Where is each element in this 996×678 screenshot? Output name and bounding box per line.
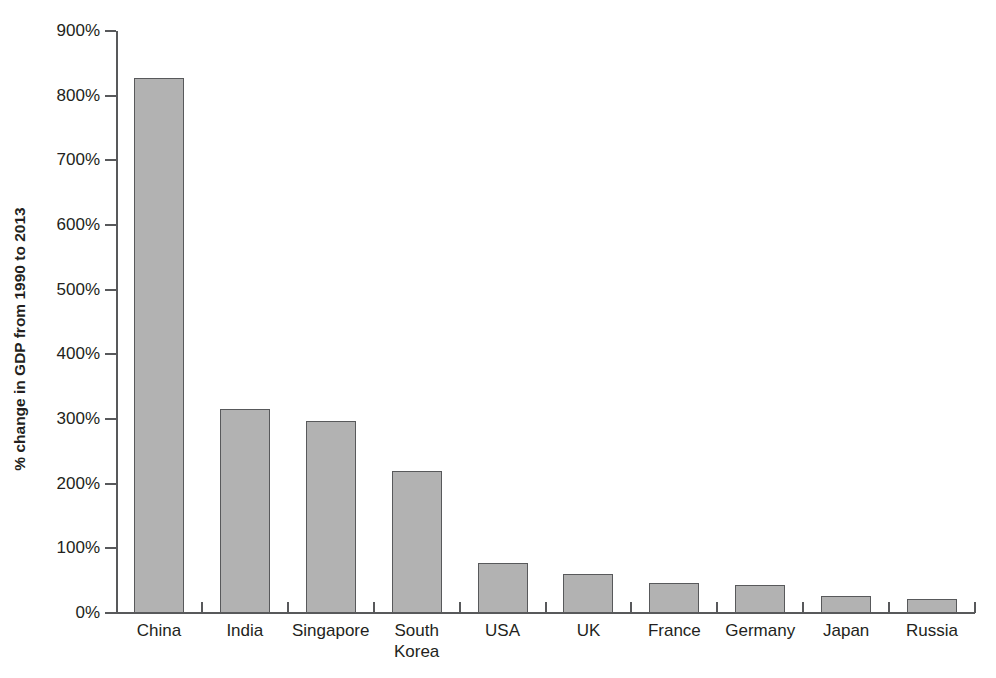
bar xyxy=(563,574,613,613)
y-tick-label: 400% xyxy=(0,344,100,364)
x-axis-category-label: Germany xyxy=(717,620,803,641)
x-tick-mark xyxy=(974,602,976,613)
x-axis-category-label: South Korea xyxy=(374,620,460,662)
y-tick-label: 200% xyxy=(0,474,100,494)
x-axis-category-label: Russia xyxy=(889,620,975,641)
y-tick-mark xyxy=(105,289,116,291)
x-tick-mark xyxy=(888,602,890,613)
bar xyxy=(735,585,785,613)
x-axis-category-label: India xyxy=(202,620,288,641)
x-tick-mark xyxy=(287,602,289,613)
y-tick-label: 500% xyxy=(0,280,100,300)
x-axis-category-label: France xyxy=(631,620,717,641)
y-tick-label: 700% xyxy=(0,150,100,170)
x-axis-category-label: China xyxy=(116,620,202,641)
bar xyxy=(306,421,356,613)
x-tick-mark xyxy=(545,602,547,613)
x-tick-mark xyxy=(459,602,461,613)
y-tick-mark xyxy=(105,612,116,614)
x-axis-category-label: UK xyxy=(546,620,632,641)
bar xyxy=(392,471,442,613)
y-tick-mark xyxy=(105,224,116,226)
y-tick-label: 800% xyxy=(0,86,100,106)
x-tick-mark xyxy=(373,602,375,613)
x-axis-category-label: USA xyxy=(460,620,546,641)
y-tick-label: 100% xyxy=(0,538,100,558)
bar xyxy=(478,563,528,613)
bar xyxy=(907,599,957,613)
bar xyxy=(649,583,699,613)
y-tick-mark xyxy=(105,418,116,420)
y-tick-mark xyxy=(105,483,116,485)
y-tick-mark xyxy=(105,95,116,97)
x-axis-category-label: Japan xyxy=(803,620,889,641)
y-tick-mark xyxy=(105,30,116,32)
bar-chart: % change in GDP from 1990 to 2013 0%100%… xyxy=(0,0,996,678)
y-tick-mark xyxy=(105,159,116,161)
x-tick-mark xyxy=(201,602,203,613)
y-tick-label: 0% xyxy=(0,603,100,623)
y-tick-label: 300% xyxy=(0,409,100,429)
y-axis-line xyxy=(116,31,118,614)
y-tick-mark xyxy=(105,547,116,549)
y-tick-label: 900% xyxy=(0,21,100,41)
x-axis-category-label: Singapore xyxy=(288,620,374,641)
x-tick-mark xyxy=(630,602,632,613)
y-tick-mark xyxy=(105,353,116,355)
x-tick-mark xyxy=(802,602,804,613)
x-tick-mark xyxy=(716,602,718,613)
bar xyxy=(134,78,184,613)
bar xyxy=(220,409,270,613)
y-tick-label: 600% xyxy=(0,215,100,235)
bar xyxy=(821,596,871,613)
